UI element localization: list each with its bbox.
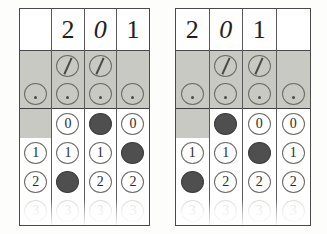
bubble-cell[interactable]: 3 (20, 196, 51, 226)
answer-bubble[interactable]: 3 (248, 200, 271, 222)
answer-bubble[interactable]: 2 (282, 171, 305, 193)
bubble-grid: 212300123101230123 (176, 9, 310, 225)
answer-bubble[interactable] (121, 83, 144, 105)
bubble-cell[interactable]: 1 (20, 138, 51, 167)
bubble-grid-panel-right[interactable]: 212300123101230123 (175, 8, 311, 226)
answer-bubble[interactable]: 3 (214, 200, 237, 222)
bubble-cell[interactable]: 2 (117, 167, 149, 196)
bubble-cell[interactable]: 1 (52, 138, 83, 167)
answer-bubble[interactable]: 1 (56, 142, 79, 164)
bubble-cell[interactable]: 3 (52, 196, 83, 226)
answer-bubble[interactable] (248, 55, 271, 77)
bubble-cell[interactable] (277, 51, 311, 80)
bubble-cell[interactable]: 0 (210, 109, 243, 138)
bubble-cell[interactable]: 2 (243, 167, 276, 196)
bubble-cell[interactable]: 1 (176, 138, 209, 167)
answer-bubble[interactable]: 1 (282, 142, 305, 164)
bubble-cell[interactable] (176, 51, 209, 80)
header-digit: 2 (61, 17, 74, 43)
answer-bubble[interactable] (282, 83, 305, 105)
answer-bubble[interactable] (214, 83, 237, 105)
bubble-cell[interactable] (243, 51, 276, 80)
answer-bubble[interactable]: 0 (214, 113, 237, 135)
answer-bubble[interactable]: 1 (121, 142, 144, 164)
bubble-cell[interactable]: 2 (277, 167, 311, 196)
bubble-cell[interactable]: 1 (210, 138, 243, 167)
answer-bubble[interactable] (248, 83, 271, 105)
bubble-grid-panel-left[interactable]: 123201230012310123 (19, 8, 150, 226)
bubble-cell[interactable]: 3 (277, 196, 311, 226)
answer-bubble[interactable]: 3 (121, 200, 144, 222)
answer-bubble[interactable] (56, 83, 79, 105)
answer-bubble[interactable] (56, 55, 79, 77)
bubble-cell[interactable] (117, 51, 149, 80)
answer-bubble[interactable] (24, 83, 47, 105)
bubble-cell[interactable]: 1 (85, 138, 116, 167)
answer-bubble[interactable]: 2 (181, 171, 204, 193)
bubble-cell[interactable]: 2 (210, 167, 243, 196)
bubble-cell[interactable] (176, 80, 209, 109)
answer-bubble[interactable]: 2 (56, 171, 79, 193)
bubble-cell[interactable] (20, 80, 51, 109)
answer-bubble[interactable]: 3 (282, 200, 305, 222)
answer-bubble[interactable]: 3 (181, 200, 204, 222)
bubble-cell[interactable] (117, 80, 149, 109)
answer-bubble[interactable]: 0 (121, 113, 144, 135)
bubble-cell[interactable]: 3 (243, 196, 276, 226)
answer-bubble[interactable]: 1 (89, 142, 112, 164)
bubble-cell[interactable]: 2 (85, 167, 116, 196)
answer-bubble[interactable]: 0 (89, 113, 112, 135)
answer-bubble[interactable]: 1 (248, 142, 271, 164)
bubble-cell[interactable]: 1 (243, 138, 276, 167)
answer-bubble[interactable]: 0 (56, 113, 79, 135)
bubble-label: 3 (189, 204, 196, 218)
answer-bubble[interactable]: 3 (56, 200, 79, 222)
bubble-label: 1 (32, 146, 39, 160)
bubble-cell[interactable]: 3 (117, 196, 149, 226)
bubble-cell[interactable] (210, 51, 243, 80)
answer-bubble[interactable]: 2 (214, 171, 237, 193)
answer-bubble[interactable] (214, 55, 237, 77)
bubble-label: 3 (64, 204, 71, 218)
grid-column: 123 (20, 9, 52, 226)
bubble-cell[interactable]: 0 (277, 109, 311, 138)
answer-bubble[interactable] (89, 55, 112, 77)
bubble-cell[interactable] (277, 80, 311, 109)
header-digit: 0 (94, 17, 107, 43)
bubble-cell[interactable]: 3 (210, 196, 243, 226)
bubble-cell[interactable] (210, 80, 243, 109)
bubble-cell[interactable]: 0 (52, 109, 83, 138)
bubble-cell[interactable]: 0 (243, 109, 276, 138)
answer-bubble[interactable]: 0 (282, 113, 305, 135)
bubble-cell[interactable] (52, 51, 83, 80)
bubble-cell[interactable] (85, 51, 116, 80)
answer-bubble[interactable]: 0 (248, 113, 271, 135)
answer-bubble[interactable]: 2 (121, 171, 144, 193)
answer-bubble[interactable]: 3 (89, 200, 112, 222)
bubble-cell[interactable]: 3 (176, 196, 209, 226)
bubble-cell[interactable] (176, 109, 209, 138)
bubble-cell[interactable] (243, 80, 276, 109)
answer-bubble[interactable]: 2 (89, 171, 112, 193)
answer-bubble[interactable]: 1 (181, 142, 204, 164)
bubble-cell[interactable]: 2 (20, 167, 51, 196)
bubble-cell[interactable]: 3 (85, 196, 116, 226)
bubble-cell[interactable]: 1 (277, 138, 311, 167)
answer-bubble[interactable]: 1 (214, 142, 237, 164)
answer-bubble[interactable]: 2 (248, 171, 271, 193)
bubble-cell[interactable]: 0 (117, 109, 149, 138)
answer-bubble[interactable] (89, 83, 112, 105)
bubble-cell[interactable] (52, 80, 83, 109)
bubble-cell[interactable]: 1 (117, 138, 149, 167)
answer-bubble[interactable] (181, 83, 204, 105)
grid-column: 10123 (243, 9, 277, 226)
bubble-cell[interactable]: 0 (85, 109, 116, 138)
answer-bubble[interactable]: 1 (24, 142, 47, 164)
bubble-cell[interactable]: 2 (176, 167, 209, 196)
bubble-cell[interactable] (20, 109, 51, 138)
bubble-cell[interactable]: 2 (52, 167, 83, 196)
bubble-cell[interactable] (85, 80, 116, 109)
bubble-cell[interactable] (20, 51, 51, 80)
answer-bubble[interactable]: 2 (24, 171, 47, 193)
answer-bubble[interactable]: 3 (24, 200, 47, 222)
